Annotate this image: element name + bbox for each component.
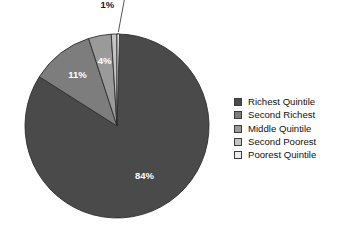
legend-color-swatch [234, 151, 242, 159]
legend-color-swatch [234, 125, 242, 133]
legend-item[interactable]: Poorest Quintile [234, 149, 354, 162]
pie-chart-figure: 84%11%4%1%0% Richest QuintileSecond Rich… [0, 0, 357, 242]
legend-item[interactable]: Second Richest [234, 109, 354, 122]
legend-item[interactable]: Richest Quintile [234, 96, 354, 109]
legend-item[interactable]: Middle Quintile [234, 122, 354, 135]
legend-item-label: Richest Quintile [248, 96, 315, 108]
pie-slices-group [25, 34, 209, 218]
pie-slice-value-label: 1% [100, 0, 114, 10]
pie-leader-lines-group [118, 0, 124, 32]
legend-item[interactable]: Second Poorest [234, 136, 354, 149]
pie-slice-value-label: 84% [135, 170, 155, 181]
chart-legend: Richest QuintileSecond RichestMiddle Qui… [234, 96, 354, 162]
legend-color-swatch [234, 98, 242, 106]
legend-item-label: Middle Quintile [248, 123, 311, 135]
pie-slice-value-label: 11% [68, 69, 87, 80]
legend-item-label: Second Poorest [248, 136, 316, 148]
legend-color-swatch [234, 138, 242, 146]
legend-item-label: Poorest Quintile [248, 149, 316, 161]
pie-label-leader-line [118, 0, 124, 32]
legend-color-swatch [234, 111, 242, 119]
pie-slice-value-label: 4% [98, 55, 112, 66]
legend-item-label: Second Richest [248, 109, 315, 121]
